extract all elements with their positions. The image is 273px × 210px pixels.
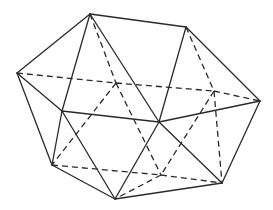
hidden-edge-JK: [116, 83, 214, 91]
visible-edges: [17, 14, 260, 199]
hidden-edge-BK: [186, 27, 214, 91]
hidden-edge-KL: [161, 91, 214, 175]
hidden-edge-LI: [161, 175, 222, 183]
visible-edge-FD: [159, 101, 260, 122]
visible-edge-FH: [115, 122, 159, 199]
visible-edge-AC: [17, 14, 90, 73]
visible-edge-AE: [62, 14, 90, 111]
visible-edge-DI: [222, 101, 260, 183]
hidden-edge-KD: [214, 91, 260, 101]
hidden-edge-KI: [214, 91, 222, 183]
hidden-edge-JG: [52, 83, 116, 165]
visible-edge-AF: [90, 14, 159, 122]
visible-edge-FI: [159, 122, 222, 183]
icosahedron-diagram: [0, 0, 273, 210]
visible-edge-AB: [90, 14, 186, 27]
hidden-edge-JL: [116, 83, 161, 175]
visible-edge-CG: [17, 73, 52, 165]
visible-edge-EG: [52, 111, 62, 165]
visible-edge-BF: [159, 27, 186, 122]
hidden-edges: [17, 14, 260, 199]
visible-edge-EH: [62, 111, 115, 199]
visible-edge-EF: [62, 111, 159, 122]
hidden-edge-CJ: [17, 73, 116, 83]
